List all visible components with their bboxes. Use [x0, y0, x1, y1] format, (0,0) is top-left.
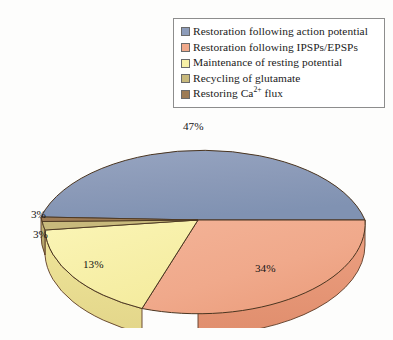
legend-swatch-brown-icon — [181, 90, 190, 99]
pie-label-34-percent: 34% — [255, 262, 276, 274]
legend-item-recycling-glutamate[interactable]: Recycling of glutamate — [181, 71, 378, 87]
pie-label-3-percent-olive: 3% — [33, 228, 48, 240]
chart-legend: Restoration following action potential R… — [173, 18, 385, 108]
legend-item-label-superscript: 2+ — [253, 86, 261, 95]
pie-svg — [17, 113, 377, 328]
legend-item-restoration-ipsps-epsps[interactable]: Restoration following IPSPs/EPSPs — [181, 40, 378, 56]
pie-label-3-percent-brown: 3% — [31, 208, 46, 220]
pie-label-13-percent: 13% — [83, 258, 104, 270]
legend-item-restoration-action-potential[interactable]: Restoration following action potential — [181, 24, 378, 40]
legend-item-label: Restoration following action potential — [193, 24, 368, 40]
pie-graphic — [17, 113, 377, 328]
legend-item-label: Recycling of glutamate — [193, 71, 300, 87]
legend-item-label: Restoring Ca2+ flux — [193, 86, 283, 102]
legend-swatch-blue-icon — [181, 27, 190, 36]
legend-item-label-post: flux — [262, 87, 283, 99]
legend-item-label: Restoration following IPSPs/EPSPs — [193, 40, 358, 56]
legend-item-restoring-ca-flux[interactable]: Restoring Ca2+ flux — [181, 86, 378, 102]
legend-swatch-olive-icon — [181, 74, 190, 83]
legend-item-label-pre: Restoring Ca — [193, 87, 253, 99]
legend-swatch-salmon-icon — [181, 43, 190, 52]
legend-item-label: Maintenance of resting potential — [193, 55, 342, 71]
pie-slice-restoration-action-potential[interactable] — [41, 150, 365, 220]
pie-label-47-percent: 47% — [183, 120, 204, 132]
legend-item-maintenance-resting-potential[interactable]: Maintenance of resting potential — [181, 55, 378, 71]
pie-chart-figure: Restoration following action potential R… — [0, 0, 393, 340]
legend-swatch-yellow-icon — [181, 59, 190, 68]
